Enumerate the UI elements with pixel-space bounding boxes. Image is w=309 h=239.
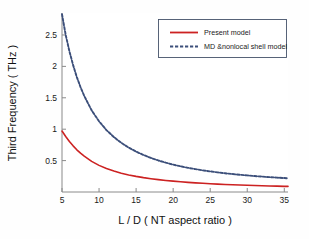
- x-tick-label: 30: [243, 195, 253, 205]
- y-tick-label: 2.5: [45, 30, 57, 40]
- x-tick-label: 20: [168, 195, 178, 205]
- x-tick-label: 5: [60, 195, 65, 205]
- y-tick-label: 2: [52, 61, 57, 71]
- legend-label-present-model: Present model: [204, 28, 251, 37]
- y-tick-label: 0.5: [45, 156, 57, 166]
- x-tick-label: 10: [94, 195, 104, 205]
- x-axis-title: L / D ( NT aspect ratio ): [118, 214, 232, 226]
- y-axis-title: Third Frequency ( THz ): [6, 45, 18, 162]
- legend: Present model MD &nonlocal shell model: [159, 20, 288, 58]
- y-tick-label: 1.5: [45, 93, 57, 103]
- x-tick-label: 15: [131, 195, 141, 205]
- x-tick-label: 35: [280, 195, 290, 205]
- x-tick-label: 25: [205, 195, 215, 205]
- chart-canvas: 5101520253035 0.511.522.5 L / D ( NT asp…: [0, 0, 309, 239]
- y-tick-label: 1: [52, 124, 57, 134]
- legend-box: [159, 20, 287, 58]
- figure-container: 5101520253035 0.511.522.5 L / D ( NT asp…: [0, 0, 309, 239]
- legend-label-md-nonlocal-shell-model: MD &nonlocal shell model: [204, 42, 287, 51]
